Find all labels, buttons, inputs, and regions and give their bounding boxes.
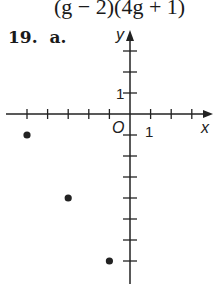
coordinate-plane: y x O 1 1 <box>0 0 214 288</box>
y-axis-label: y <box>115 26 125 43</box>
data-point <box>23 131 30 138</box>
origin-label: O <box>112 119 124 136</box>
data-point <box>106 257 113 264</box>
x-axis-label: x <box>200 119 210 136</box>
data-points <box>23 131 113 264</box>
data-point <box>65 194 72 201</box>
y-axis-arrow-icon <box>126 30 134 41</box>
x-axis-arrow-icon <box>203 110 213 118</box>
x-tick-label: 1 <box>145 123 153 140</box>
y-tick-label: 1 <box>116 85 124 102</box>
